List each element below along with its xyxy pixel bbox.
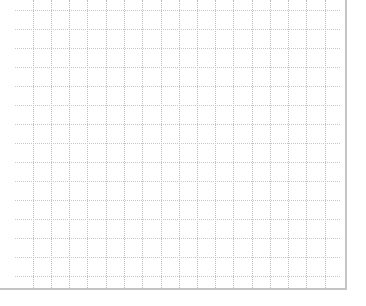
grid-vertical-line [179,0,180,288]
grid-vertical-line [51,0,52,288]
grid-vertical-line [69,0,70,288]
grid-vertical-line [288,0,289,288]
grid-vertical-line [87,0,88,288]
grid-horizontal-line [15,143,340,144]
grid-horizontal-line [15,67,340,68]
grid-horizontal-line [15,181,340,182]
grid-horizontal-line [15,124,340,125]
grid-horizontal-line [15,257,340,258]
grid-horizontal-line [15,86,340,87]
grid-horizontal-line [15,10,340,11]
grid-vertical-line [270,0,271,288]
grid-horizontal-line [15,200,340,201]
grid-horizontal-line [15,105,340,106]
grid-vertical-line [106,0,107,288]
grid-vertical-line [142,0,143,288]
grid-vertical-line [306,0,307,288]
grid-vertical-line [124,0,125,288]
grid-horizontal-line [15,29,340,30]
grid-vertical-line [161,0,162,288]
grid-horizontal-line [15,238,340,239]
grid-paper [0,0,347,290]
grid-vertical-line [233,0,234,288]
grid-horizontal-line [15,219,340,220]
grid-vertical-line [197,0,198,288]
grid-vertical-line [215,0,216,288]
grid-horizontal-line [15,162,340,163]
grid-vertical-line [252,0,253,288]
grid-vertical-line [33,0,34,288]
grid-vertical-line [325,0,326,288]
grid-horizontal-line [15,48,340,49]
grid-horizontal-line [15,276,340,277]
